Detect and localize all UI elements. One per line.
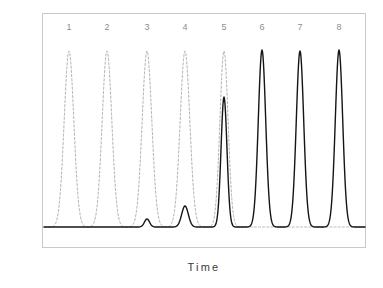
peak-number-label: 5 [217, 22, 231, 33]
plot-canvas [0, 0, 383, 288]
plot-frame [43, 14, 366, 248]
peak-number-label: 6 [255, 22, 269, 33]
peak-number-label: 1 [62, 22, 76, 33]
solid-trace-path [44, 50, 365, 227]
peak-number-label: 3 [140, 22, 154, 33]
chromatogram-figure: Signal 12345678 Time [0, 0, 383, 288]
peak-number-label: 8 [332, 22, 346, 33]
solid-trace [44, 50, 365, 227]
x-axis-label: Time [42, 261, 366, 273]
dashed-trace [44, 51, 365, 227]
peak-number-label: 7 [293, 22, 307, 33]
peak-number-label: 2 [100, 22, 114, 33]
dashed-trace-path [44, 51, 365, 227]
peak-number-label: 4 [178, 22, 192, 33]
